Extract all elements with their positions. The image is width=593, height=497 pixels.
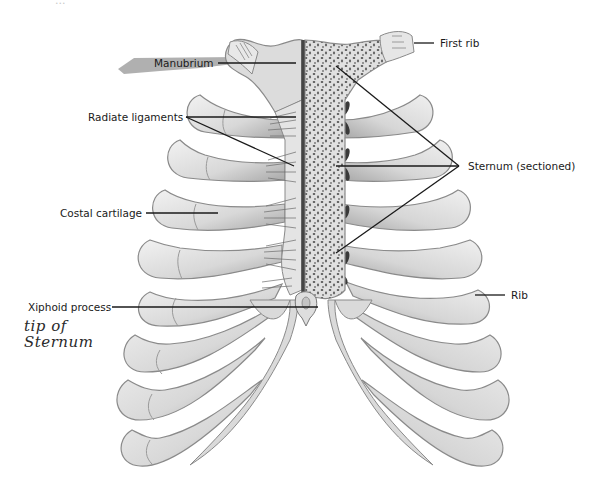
- ribcage-illustration: [0, 0, 593, 497]
- label-sternum-sectioned: Sternum (sectioned): [468, 160, 575, 172]
- cropped-title-fragment: ...: [55, 0, 66, 7]
- label-costal-cartilage: Costal cartilage: [60, 207, 142, 219]
- label-xiphoid-process: Xiphoid process: [28, 301, 111, 313]
- leader-sternum-1: [336, 66, 459, 166]
- label-rib: Rib: [511, 289, 528, 301]
- thoracic-cage-diagram: ... Manubrium First rib Radiate ligament…: [0, 0, 593, 497]
- right-ribs: [340, 95, 509, 466]
- label-radiate-ligaments: Radiate ligaments: [88, 111, 183, 123]
- label-manubrium: Manubrium: [154, 57, 214, 69]
- handwritten-note: tip of Sternum: [24, 318, 93, 350]
- label-first-rib: First rib: [440, 37, 479, 49]
